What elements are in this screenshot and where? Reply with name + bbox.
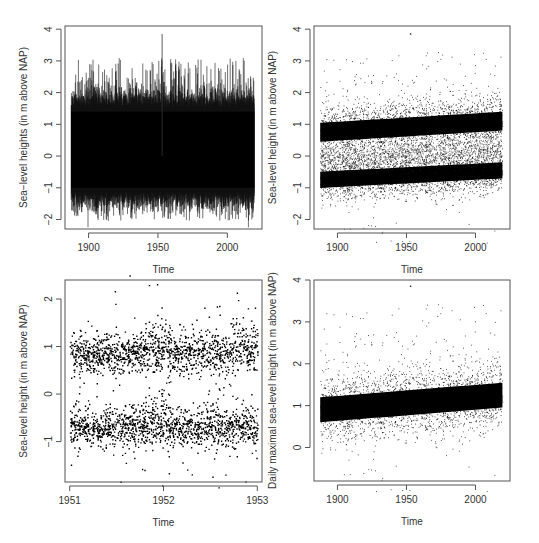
panel-top-left-sea-level-line: 190019502000Time−2−101234Sea−level heigh… [18, 26, 262, 275]
x-tick-label: 2000 [216, 242, 239, 253]
y-tick-label: 3 [292, 319, 303, 325]
y-tick-label: 0 [43, 391, 54, 397]
x-axis-label: Time [153, 517, 175, 528]
y-tick-label: 1 [43, 343, 54, 349]
chart-canvas: 190019502000Time−2−101234Sea−level heigh… [0, 0, 539, 543]
x-axis: 190019502000Time [77, 233, 238, 275]
x-tick-label: 1950 [147, 242, 170, 253]
y-tick-label: −2 [43, 213, 54, 225]
x-tick-label: 1900 [77, 242, 100, 253]
plot-data [71, 34, 254, 227]
y-axis: 01234Daily maximal sea-level height (in … [267, 272, 310, 489]
x-tick-label: 1900 [326, 242, 349, 253]
x-axis-label: Time [401, 264, 423, 275]
x-axis-label: Time [153, 264, 175, 275]
y-axis: −2−101234Sea-level height (in m above NA… [267, 26, 310, 225]
x-axis: 190019502000Time [326, 485, 487, 527]
x-axis: 195119521953Time [59, 486, 269, 528]
y-axis: −2−101234Sea−level heights (in m above N… [18, 26, 61, 225]
y-tick-label: 0 [292, 444, 303, 450]
figure: 190019502000Time−2−101234Sea−level heigh… [0, 0, 539, 543]
x-tick-label: 1900 [326, 494, 349, 505]
y-tick-label: −1 [43, 182, 54, 194]
y-axis-label: Sea-level height (in m above NAP) [267, 51, 278, 204]
x-tick-label: 1950 [395, 242, 418, 253]
y-tick-label: 1 [43, 121, 54, 127]
panel-bottom-right-daily-max-scatter: 190019502000Time01234Daily maximal sea-l… [267, 272, 510, 527]
y-axis-label: Sea-level height (in m above NAP) [18, 304, 29, 457]
y-tick-label: −1 [292, 182, 303, 194]
y-tick-label: 4 [43, 26, 54, 32]
plot-frame [314, 280, 510, 481]
plot-data [70, 276, 259, 488]
x-axis-label: Time [401, 516, 423, 527]
y-tick-label: 2 [292, 89, 303, 95]
y-tick-label: 2 [292, 361, 303, 367]
y-tick-label: 3 [43, 58, 54, 64]
y-tick-label: 1 [292, 121, 303, 127]
y-tick-label: 3 [292, 58, 303, 64]
x-axis: 190019502000Time [326, 233, 487, 275]
y-axis-label: Daily maximal sea-level height (in m abo… [267, 272, 278, 489]
panel-top-right-sea-level-scatter: 190019502000Time−2−101234Sea-level heigh… [267, 26, 510, 275]
x-tick-label: 2000 [464, 494, 487, 505]
plot-frame [65, 280, 262, 482]
y-tick-label: 2 [43, 89, 54, 95]
y-tick-label: 4 [292, 26, 303, 32]
y-tick-label: −2 [292, 213, 303, 225]
y-tick-label: 0 [43, 153, 54, 159]
y-tick-label: 1 [292, 402, 303, 408]
y-axis: −1012Sea-level height (in m above NAP) [18, 296, 61, 458]
x-tick-label: 1952 [152, 495, 175, 506]
y-tick-label: −1 [43, 435, 54, 447]
y-tick-label: 0 [292, 153, 303, 159]
plot-data [320, 285, 503, 491]
plot-data [320, 33, 503, 243]
x-tick-label: 1951 [59, 495, 82, 506]
x-tick-label: 2000 [464, 242, 487, 253]
x-tick-label: 1950 [395, 494, 418, 505]
y-tick-label: 2 [43, 296, 54, 302]
y-tick-label: 4 [292, 277, 303, 283]
y-axis-label: Sea−level heights (in m above NAP) [18, 47, 29, 208]
x-tick-label: 1953 [246, 495, 269, 506]
panel-bottom-left-1951-1953-scatter: 195119521953Time−1012Sea-level height (i… [18, 276, 269, 528]
